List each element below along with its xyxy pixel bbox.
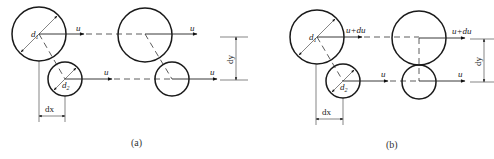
velocity-label-bottom-left: u	[104, 67, 109, 77]
dy-label: dy	[473, 57, 483, 67]
d1-label: d1	[31, 29, 39, 40]
caption-b: (b)	[386, 139, 398, 151]
velocity-label-top-left: u+du	[346, 25, 366, 35]
dx-label: dx	[322, 107, 332, 117]
center-connector-initial	[317, 37, 343, 81]
center-connector-initial	[39, 34, 65, 79]
velocity-label-top-right: u+du	[452, 26, 472, 36]
velocity-label-bottom-right: u	[210, 67, 215, 77]
panel-b: d1 u+du d2 u dx u+du u dy (b)	[290, 10, 494, 151]
d1-label: d1	[309, 32, 317, 43]
dy-label: dy	[225, 55, 235, 65]
velocity-label-bottom-right: u	[458, 69, 463, 79]
velocity-label-bottom-left: u	[381, 69, 386, 79]
caption-a: (a)	[131, 137, 142, 149]
velocity-label-top-left: u	[76, 23, 81, 33]
d2-label: d2	[340, 82, 348, 93]
velocity-label-top-right: u	[190, 23, 195, 33]
d2-label: d2	[62, 80, 70, 91]
panel-a: d1 u d2 u dx u u dy (a)	[12, 7, 248, 149]
center-connector-later	[145, 34, 172, 79]
diagram-canvas: d1 u d2 u dx u u dy (a)	[0, 0, 494, 159]
droplet-d1-later	[118, 8, 172, 62]
dx-label: dx	[45, 104, 55, 114]
